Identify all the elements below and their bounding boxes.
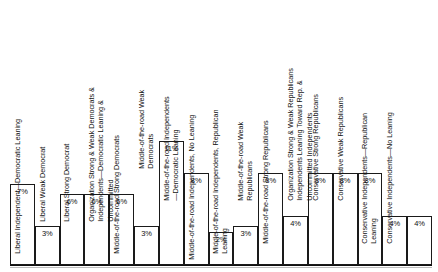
bar-category-label: Liberal Independent—Uncommitted <box>0 23 13 212</box>
bar: 3% <box>233 226 258 265</box>
bar-category-label: Liberal Strong Democrat <box>63 23 88 222</box>
bar-category-label: Conservative Weak Republicans <box>336 23 361 201</box>
bar-value-label: 4% <box>408 219 431 228</box>
chart-baseline <box>10 265 432 266</box>
bar-category-label-line: Independents Leaning Toward Rep. & <box>295 23 304 201</box>
bar-value-label: 4% <box>284 219 307 228</box>
bar-category-label: Organization Strong & Weak RepublicansIn… <box>286 23 311 201</box>
bar-category-label: Conservative Strong Republicans <box>311 23 336 201</box>
bar-category-label: Conservative Independents—No Leaning <box>385 23 410 244</box>
bar: 3% <box>35 226 60 265</box>
bar-value-label: 3% <box>135 229 158 238</box>
bar-category-label-line: Middle-of-the-road Weak <box>137 90 146 169</box>
bar-category-label-line: Organization Strong & Weak Republicans <box>286 68 295 201</box>
bar-category-label-line: Middle-of-the-road Independents <box>162 97 171 201</box>
bar-category-label-line: Conservative Weak Republicans <box>336 97 345 201</box>
bar: 3% <box>134 226 159 265</box>
bar-category-label-line: Leaning <box>221 23 230 254</box>
bar-category-label: Middle-of-the-road Independents, No Lean… <box>187 23 212 260</box>
bar-category-label: Conservative Independents—RepublicanLean… <box>361 23 386 244</box>
bar-category-label: Middle-of-the-road Independents—Democrat… <box>162 23 187 201</box>
bar-category-label: Organization Strong & Weak Democrats &In… <box>87 23 112 222</box>
bar-category-label-line: Leaning <box>370 23 379 244</box>
bar-category-label-line: Middle-of-the-road Strong Democrats <box>112 135 121 254</box>
bar-chart: 7%3%6%6%6%3%11%8%2%3%8%4%8%8%8%4%4% Libe… <box>0 0 438 272</box>
bar-category-label-line: Conservative Strong Republicans <box>311 94 320 201</box>
bar-category-label-line: Liberal Independent—Democratic Leaning <box>13 119 22 254</box>
bar-category-label-line: Conservative Independents—No Leaning <box>385 112 394 244</box>
bar-category-label: Middle-of-the-road Independents, Republi… <box>212 23 237 254</box>
bar-value-label: 3% <box>36 229 59 238</box>
bar-category-label-line: Middle-of-the-road Independents, Republi… <box>212 110 221 254</box>
bar-category-label: Middle-of-the-road Strong Democrats <box>112 23 137 254</box>
bar: 4% <box>283 216 308 265</box>
bar-category-label: Middle-of-the-road WeakRepublicans <box>236 23 261 201</box>
bar-category-label: Middle-of-the-road Strong Republicans <box>261 23 286 244</box>
bar-category-label-line: Middle-of-the-road Independents, No Lean… <box>187 115 196 260</box>
bar-category-label-line: Independents—Democratic Leaning & <box>97 23 106 222</box>
bar-category-label-line: Organization Strong & Weak Democrats & <box>87 88 96 223</box>
bar-category-label-line: Republicans <box>246 23 255 201</box>
bar-value-label: 3% <box>234 229 257 238</box>
bar-category-label: Liberal Independent—Democratic Leaning <box>13 23 38 254</box>
bar: 4% <box>407 216 432 265</box>
bar-category-label-line: Middle-of-the-road Strong Republicans <box>261 120 270 243</box>
bar-category-label-line: Middle-of-the-road Weak <box>236 122 245 201</box>
bar-category-label: Liberal Weak Democrat <box>38 23 63 222</box>
bar-category-label-line: Democrats <box>147 23 156 169</box>
bar-category-label-line: —Democratic Leaning <box>171 23 180 201</box>
bar-category-label-line: Liberal Weak Democrat <box>38 147 47 222</box>
chart-baseline-shadow <box>10 267 432 268</box>
bar-category-label: Middle-of-the-road WeakDemocrats <box>137 23 162 169</box>
bar-category-label-line: Conservative Independents—Republican <box>361 113 370 244</box>
bar-category-label-line: Liberal Strong Democrat <box>63 144 72 222</box>
